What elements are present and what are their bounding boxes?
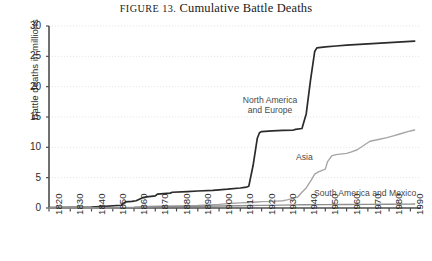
series-label-line1: North America [243, 95, 297, 105]
y-tick-label: 25 [19, 50, 41, 61]
x-tick-label: 1880 [181, 193, 192, 215]
y-tick-label: 15 [19, 111, 41, 122]
series-label-south-america-mexico: South America and Mexico [314, 188, 416, 198]
y-tick-label: 5 [19, 172, 41, 183]
x-tick-label: 1850 [117, 193, 128, 215]
x-tick-label: 1860 [138, 193, 149, 215]
x-tick-label: 1840 [96, 193, 107, 215]
figure-container: FIGURE 13. Cumulative Battle Deaths Batt… [0, 0, 432, 261]
x-tick-label: 1830 [74, 193, 85, 215]
gridlines [49, 26, 421, 178]
series-paths [49, 41, 415, 208]
series-label-north-america-europe: North America and Europe [236, 95, 304, 116]
x-tick-label: 1890 [202, 193, 213, 215]
x-tick-label: 1900 [223, 193, 234, 215]
y-tick-label: 10 [19, 141, 41, 152]
y-tick-label: 20 [19, 81, 41, 92]
series-label-asia: Asia [296, 152, 313, 162]
x-tick-label: 1920 [266, 193, 277, 215]
x-tick-label: 1910 [244, 193, 255, 215]
y-tick-label: 30 [19, 20, 41, 31]
x-tick-label: 1870 [159, 193, 170, 215]
y-tick-label: 0 [19, 202, 41, 213]
series-label-line2: and Europe [248, 105, 292, 115]
x-tick-label: 1820 [53, 193, 64, 215]
x-tick-label: 1930 [287, 193, 298, 215]
series-line [49, 41, 415, 208]
chart-plot [0, 0, 432, 261]
